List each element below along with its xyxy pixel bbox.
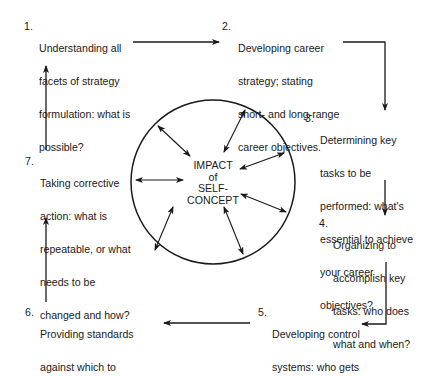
radial-arrow-upper-left bbox=[158, 126, 190, 156]
center-label-line: CONCEPT bbox=[163, 195, 263, 207]
step-text-line: needs to be bbox=[40, 277, 131, 288]
step-text-line: facets of strategy bbox=[39, 76, 130, 87]
step-text-line: possible? bbox=[39, 142, 130, 153]
center-label-line: SELF- bbox=[163, 183, 263, 195]
step-text-line: against which to bbox=[40, 362, 163, 373]
step-text-line: Organizing to bbox=[333, 240, 410, 251]
step-number: 2. bbox=[222, 21, 231, 32]
step-text-line: changed and how? bbox=[40, 310, 131, 321]
step-number: 5. bbox=[258, 307, 267, 318]
step-text-line: Developing career bbox=[238, 43, 339, 54]
radial-arrow-lower-left bbox=[155, 207, 173, 250]
step-text-line: formulation: what is bbox=[39, 109, 130, 120]
step-text-line: tasks to be bbox=[320, 168, 413, 179]
flow-arrow-2-to-3 bbox=[343, 42, 385, 110]
step-text-line: Understanding all bbox=[39, 43, 130, 54]
step-text-line: systems: who gets bbox=[272, 362, 360, 373]
step-number: 3. bbox=[305, 113, 314, 124]
step-text-line: action: what is bbox=[40, 211, 131, 222]
step-number: 4. bbox=[319, 218, 328, 229]
radial-arrow-lower-right bbox=[224, 207, 243, 254]
step-text-line: Developing control bbox=[272, 329, 360, 340]
step-number: 1. bbox=[24, 21, 33, 32]
step-number: 6. bbox=[25, 307, 34, 318]
step-number: 7. bbox=[25, 156, 34, 167]
step-text-line: accomplish key bbox=[333, 273, 410, 284]
step-text-line: repeatable, or what bbox=[40, 244, 131, 255]
step-text-line: Taking corrective bbox=[40, 178, 131, 189]
step-text-line: strategy; stating bbox=[238, 76, 339, 87]
step-text-line: Determining key bbox=[320, 135, 413, 146]
step-text-line: performed: what's bbox=[320, 201, 413, 212]
